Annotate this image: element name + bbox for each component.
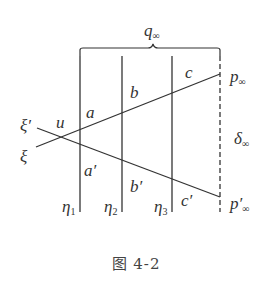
label-a: a [86, 104, 95, 121]
label-eta3: η3 [154, 198, 167, 217]
figure-caption: 图 4-2 [0, 252, 272, 273]
label-xi: ξ [20, 148, 27, 165]
label-eta1: η1 [62, 198, 75, 217]
label-p-inf: p∞ [230, 68, 246, 87]
label-u: u [56, 114, 65, 131]
label-b-prime: b′ [130, 178, 142, 195]
label-q-inf: q∞ [144, 22, 160, 41]
label-delta-inf: δ∞ [234, 130, 249, 149]
label-a-prime: a′ [84, 162, 96, 179]
diagram-canvas [0, 0, 272, 285]
label-c: c [185, 64, 193, 81]
label-c-prime: c′ [181, 192, 192, 209]
line-xiprime-pprime [37, 128, 220, 197]
label-eta2: η2 [104, 198, 117, 217]
line-xi-p [36, 74, 220, 147]
brace [80, 44, 220, 56]
label-xi-prime: ξ′ [20, 117, 31, 134]
label-p-prime-inf: p′∞ [230, 195, 249, 214]
label-b: b [130, 84, 139, 101]
